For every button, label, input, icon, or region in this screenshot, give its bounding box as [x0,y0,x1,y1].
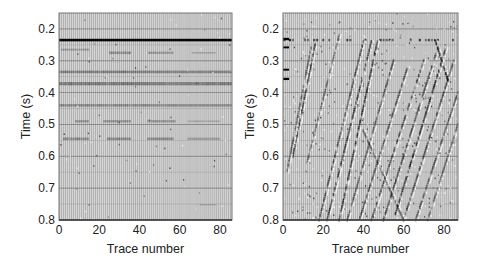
left-seismic-chart: 0.20.30.40.50.60.70.8020406080Trace numb… [0,0,240,261]
y-tick-label: 0.4 [262,86,279,100]
y-axis: 0.20.30.40.50.60.70.8 [38,22,55,227]
x-axis: 020406080 [56,223,227,237]
left-seismic-panel: 0.20.30.40.50.60.70.8020406080Trace numb… [0,0,240,261]
y-tick-label: 0.8 [38,213,55,227]
y-tick-label: 0.5 [262,117,279,131]
x-axis: 020406080 [280,223,451,237]
y-tick-label: 0.4 [38,86,55,100]
y-axis-title: Time (s) [243,94,257,139]
y-tick-label: 0.3 [38,54,55,68]
x-tick-label: 80 [213,223,227,237]
x-tick-label: 0 [280,223,287,237]
y-tick-label: 0.7 [262,181,279,195]
y-tick-label: 0.6 [38,149,55,163]
y-tick-label: 0.2 [38,22,55,36]
y-tick-label: 0.8 [262,213,279,227]
right-seismic-chart: 0.20.30.40.50.60.70.8020406080Trace numb… [240,0,481,261]
x-tick-label: 40 [357,223,371,237]
y-tick-label: 0.6 [262,149,279,163]
right-seismic-panel: 0.20.30.40.50.60.70.8020406080Trace numb… [240,0,481,261]
x-tick-label: 80 [437,223,451,237]
x-tick-label: 20 [93,223,107,237]
y-tick-label: 0.5 [38,117,55,131]
x-tick-label: 60 [173,223,187,237]
y-tick-label: 0.2 [262,22,279,36]
y-axis: 0.20.30.40.50.60.70.8 [262,22,279,227]
x-tick-label: 0 [56,223,63,237]
x-axis-title: Trace number [107,242,184,256]
x-tick-label: 20 [317,223,331,237]
x-tick-label: 40 [133,223,147,237]
x-tick-label: 60 [397,223,411,237]
y-tick-label: 0.7 [38,181,55,195]
y-tick-label: 0.3 [262,54,279,68]
y-axis-title: Time (s) [19,94,33,139]
x-axis-title: Trace number [332,242,409,256]
